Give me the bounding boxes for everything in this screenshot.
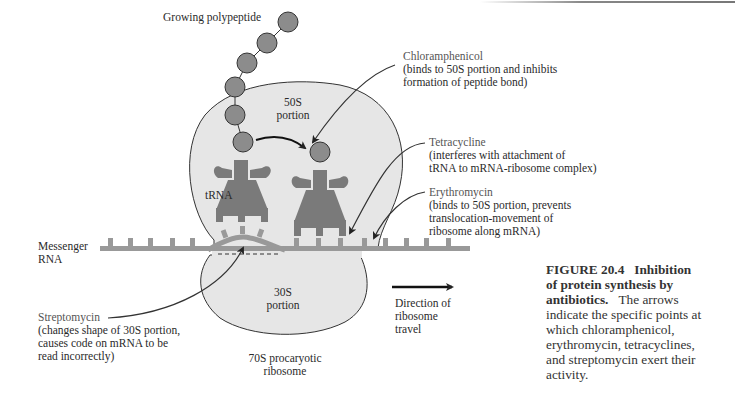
erythromycin-desc-line2: translocation-movement of	[429, 212, 571, 225]
mrna-label-line1: Messenger	[38, 240, 88, 253]
erythromycin-desc-line1: (binds to 50S portion, prevents	[429, 199, 571, 212]
chloramphenicol-annotation: Chloramphenicol (binds to 50S portion an…	[403, 50, 557, 89]
chloramphenicol-desc-line1: (binds to 50S portion and inhibits	[403, 63, 557, 76]
caption-body-1: The arrows	[618, 292, 678, 307]
tetracycline-name: Tetracycline	[429, 136, 597, 149]
tetracycline-desc-line2: tRNA to mRNA-ribosome complex)	[429, 162, 597, 175]
large-subunit-label: 50S portion	[268, 96, 318, 122]
erythromycin-annotation: Erythromycin (binds to 50S portion, prev…	[429, 186, 571, 238]
large-subunit-label-line2: portion	[268, 109, 318, 122]
streptomycin-desc-line3: read incorrectly)	[38, 350, 180, 363]
chloramphenicol-desc-line2: formation of peptide bond)	[403, 76, 557, 89]
caption-body-5: and streptomycin exert their	[546, 352, 736, 367]
streptomycin-annotation: Streptomycin (changes shape of 30S porti…	[38, 311, 180, 363]
growing-polypeptide-label: Growing polypeptide	[163, 11, 261, 24]
tetracycline-desc-line1: (interferes with attachment of	[429, 149, 597, 162]
caption-body-6: activity.	[546, 367, 736, 382]
caption-line-3: antibiotics. The arrows	[546, 292, 736, 307]
large-subunit-label-line1: 50S	[268, 96, 318, 109]
small-subunit-label: 30S portion	[253, 286, 313, 312]
streptomycin-desc-line1: (changes shape of 30S portion,	[38, 324, 180, 337]
caption-line-1: FIGURE 20.4 Inhibition	[546, 262, 736, 277]
direction-label-line1: Direction of	[395, 297, 451, 310]
trna-label: tRNA	[205, 189, 232, 202]
caption-line-2: of protein synthesis by	[546, 277, 736, 292]
small-subunit-label-line1: 30S	[253, 286, 313, 299]
mrna-label-line2: RNA	[38, 253, 88, 266]
tetracycline-annotation: Tetracycline (interferes with attachment…	[429, 136, 597, 175]
erythromycin-name: Erythromycin	[429, 186, 571, 199]
ribosome-label-line2: ribosome	[230, 365, 340, 378]
mrna-label: Messenger RNA	[38, 240, 88, 266]
caption-body-2: indicate the specific points at	[546, 307, 736, 322]
figure-title-part2: of protein synthesis by	[546, 277, 673, 292]
caption-body-3: which chloramphenicol,	[546, 322, 736, 337]
streptomycin-name: Streptomycin	[38, 311, 180, 324]
figure-title-part1: Inhibition	[634, 262, 691, 277]
figure-title-part3: antibiotics.	[546, 292, 608, 307]
streptomycin-desc-line2: causes code on mRNA to be	[38, 337, 180, 350]
chloramphenicol-name: Chloramphenicol	[403, 50, 557, 63]
figure-caption: FIGURE 20.4 Inhibition of protein synthe…	[546, 262, 736, 382]
direction-label: Direction of ribosome travel	[395, 297, 451, 336]
ribosome-label: 70S procaryotic ribosome	[230, 352, 340, 378]
small-subunit-label-line2: portion	[253, 299, 313, 312]
direction-label-line3: travel	[395, 323, 451, 336]
ribosome-label-line1: 70S procaryotic	[230, 352, 340, 365]
direction-label-line2: ribosome	[395, 310, 451, 323]
erythromycin-desc-line3: ribosome along mRNA)	[429, 225, 571, 238]
caption-body-4: erythromycin, tetracyclines,	[546, 337, 736, 352]
figure-number: FIGURE 20.4	[546, 262, 624, 277]
